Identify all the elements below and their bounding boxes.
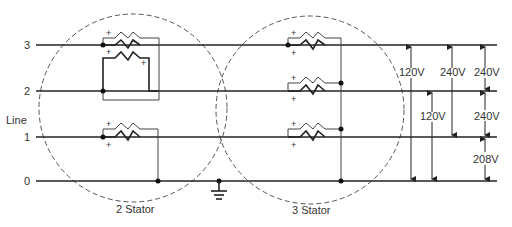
junction-dot [339, 179, 344, 184]
line-label-3: 3 [24, 39, 30, 51]
polarity-plus: + [106, 47, 111, 57]
stator-3-windings: + + + + + + [286, 28, 344, 184]
voltage-120v-3-0: 120V [399, 66, 425, 78]
polarity-plus: + [106, 119, 111, 129]
polarity-plus: + [141, 58, 146, 68]
polarity-plus: + [291, 140, 296, 150]
polarity-plus: + [106, 28, 111, 38]
voltage-240v-3-2: 240V [474, 66, 500, 78]
stator-2-windings: + + + + + [101, 28, 161, 184]
winding-c-loop [103, 123, 158, 181]
junction-dot [339, 127, 344, 132]
wiring-diagram: 3 2 Line 1 0 + + + + + + + [0, 0, 512, 227]
junction-dot [156, 179, 161, 184]
stator-3-label: 3 Stator [292, 204, 331, 216]
voltage-measurements: 120V 120V 240V 240V 240V 208V [399, 47, 500, 179]
winding-a-loop [103, 32, 159, 91]
voltage-208v-1-0: 208V [473, 153, 499, 165]
junction-dot [101, 43, 106, 48]
voltage-240v-2-1: 240V [474, 110, 500, 122]
polarity-plus: + [291, 28, 296, 38]
line-label-1: 1 [24, 131, 30, 143]
polarity-plus: + [291, 94, 296, 104]
polarity-plus: + [291, 73, 296, 83]
voltage-120v-2-0: 120V [420, 110, 446, 122]
polarity-plus: + [106, 140, 111, 150]
line-label-0: 0 [24, 175, 30, 187]
winding-c-coil [103, 131, 140, 140]
winding-b-coil [103, 52, 159, 91]
voltage-240v-3-1: 240V [440, 66, 466, 78]
winding-3b-coil [288, 85, 325, 94]
junction-dot [101, 89, 106, 94]
line-label-2: 2 [24, 85, 30, 97]
stator-2-label: 2 Stator [116, 203, 155, 215]
polarity-plus: + [291, 119, 296, 129]
line-axis-label: Line [6, 114, 27, 126]
winding-3c-coil [288, 131, 325, 140]
junction-dot [339, 81, 344, 86]
junction-dot [101, 135, 106, 140]
polarity-plus: + [291, 48, 296, 58]
stator-2-boundary [39, 14, 227, 202]
winding-b-loop [103, 91, 159, 100]
junction-dot [286, 43, 291, 48]
